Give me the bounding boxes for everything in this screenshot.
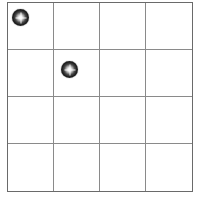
board-cell-r1-c3[interactable] [146,50,192,97]
board-cell-r0-c0[interactable] [8,3,54,50]
board-cell-r0-c2[interactable] [100,3,146,50]
sparkle-ball-piece[interactable] [12,9,29,26]
board-cell-r1-c1[interactable] [54,50,100,97]
board-cell-r2-c2[interactable] [100,97,146,144]
board-cell-r1-c0[interactable] [8,50,54,97]
board-cell-r3-c2[interactable] [100,144,146,191]
game-board [7,2,193,192]
sparkle-ball-piece[interactable] [61,61,78,78]
board-cell-r2-c1[interactable] [54,97,100,144]
board-cell-r2-c3[interactable] [146,97,192,144]
board-cell-r2-c0[interactable] [8,97,54,144]
board-cell-r1-c2[interactable] [100,50,146,97]
board-cell-r3-c3[interactable] [146,144,192,191]
board-cell-r0-c1[interactable] [54,3,100,50]
board-cell-r0-c3[interactable] [146,3,192,50]
board-cell-r3-c1[interactable] [54,144,100,191]
board-cell-r3-c0[interactable] [8,144,54,191]
